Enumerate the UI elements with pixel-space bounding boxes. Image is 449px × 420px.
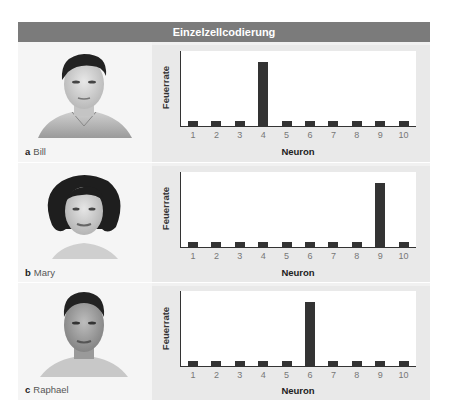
caption-bill: aBill [25, 146, 46, 157]
bar-neuron-10 [399, 121, 409, 126]
y-axis [180, 172, 181, 247]
x-axis-label: Neuron [180, 385, 416, 396]
caption-raphael: cRaphael [25, 384, 69, 395]
bar-neuron-3 [235, 242, 245, 247]
x-tick-label: 9 [370, 130, 390, 140]
x-tick-label: 6 [300, 251, 320, 261]
x-tick-label: 4 [253, 130, 273, 140]
x-tick-label: 1 [183, 251, 203, 261]
raphael-face-icon [32, 287, 136, 379]
x-tick-label: 8 [347, 251, 367, 261]
bar-neuron-2 [211, 121, 221, 126]
bar-neuron-10 [399, 242, 409, 247]
x-axis [180, 247, 416, 248]
chart-panel-raphael: Feuerrate Neuron 12345678910 [152, 283, 430, 400]
bar-neuron-8 [352, 121, 362, 126]
x-tick-label: 3 [230, 370, 250, 380]
bar-neuron-10 [399, 361, 409, 366]
x-tick-label: 7 [323, 130, 343, 140]
bar-neuron-1 [188, 242, 198, 247]
x-axis [180, 366, 416, 367]
plot-area [180, 291, 416, 366]
bar-neuron-9 [375, 121, 385, 126]
figure: Einzelzellcodierung aBill Feuerrate [18, 22, 430, 400]
x-tick-label: 7 [323, 251, 343, 261]
bar-neuron-7 [328, 242, 338, 247]
row-mary: bMary Feuerrate Neuron 12345678910 [18, 163, 430, 282]
bar-neuron-5 [282, 242, 292, 247]
row-bill: aBill Feuerrate Neuron 12345678910 [18, 42, 430, 162]
x-tick-label: 1 [183, 370, 203, 380]
x-tick-label: 1 [183, 130, 203, 140]
face-panel: bMary [18, 163, 152, 282]
plot-area [180, 51, 416, 126]
bar-neuron-4 [258, 242, 268, 247]
bar-neuron-1 [188, 361, 198, 366]
chart-panel-mary: Feuerrate Neuron 12345678910 [152, 163, 430, 282]
x-tick-label: 10 [394, 130, 414, 140]
x-tick-label: 5 [277, 251, 297, 261]
chart-panel-bill: Feuerrate Neuron 12345678910 [152, 42, 430, 162]
x-axis-label: Neuron [180, 267, 416, 278]
caption-mary: bMary [25, 267, 55, 278]
bar-neuron-4 [258, 361, 268, 366]
x-axis [180, 126, 416, 127]
bar-neuron-6 [305, 242, 315, 247]
bar-neuron-1 [188, 121, 198, 126]
face-panel: aBill [18, 42, 152, 162]
y-axis-label: Feuerrate [160, 307, 171, 350]
bar-neuron-6 [305, 121, 315, 126]
x-tick-label: 2 [206, 130, 226, 140]
bar-neuron-3 [235, 361, 245, 366]
bill-face-icon [32, 46, 136, 138]
bar-neuron-6 [305, 302, 315, 366]
bar-neuron-5 [282, 121, 292, 126]
x-tick-label: 2 [206, 251, 226, 261]
bar-neuron-2 [211, 242, 221, 247]
x-tick-label: 10 [394, 251, 414, 261]
row-raphael: cRaphael Feuerrate Neuron 12345678910 [18, 283, 430, 400]
x-tick-label: 5 [277, 370, 297, 380]
bar-neuron-9 [375, 361, 385, 366]
x-tick-label: 8 [347, 130, 367, 140]
bar-neuron-9 [375, 183, 385, 247]
y-axis-label: Feuerrate [160, 66, 171, 109]
x-tick-label: 6 [300, 370, 320, 380]
bar-neuron-7 [328, 361, 338, 366]
bar-neuron-4 [258, 62, 268, 126]
mary-face-icon [32, 167, 136, 259]
x-tick-label: 9 [370, 251, 390, 261]
x-axis-label: Neuron [180, 146, 416, 157]
x-tick-label: 10 [394, 370, 414, 380]
bar-neuron-7 [328, 121, 338, 126]
x-tick-label: 4 [253, 251, 273, 261]
face-panel: cRaphael [18, 283, 152, 400]
y-axis [180, 51, 181, 126]
x-tick-label: 2 [206, 370, 226, 380]
bar-neuron-8 [352, 361, 362, 366]
x-tick-label: 4 [253, 370, 273, 380]
bar-neuron-2 [211, 361, 221, 366]
x-tick-label: 6 [300, 130, 320, 140]
bar-neuron-3 [235, 121, 245, 126]
x-tick-label: 8 [347, 370, 367, 380]
x-tick-label: 5 [277, 130, 297, 140]
figure-title: Einzelzellcodierung [18, 22, 430, 42]
bar-neuron-8 [352, 242, 362, 247]
bar-neuron-5 [282, 361, 292, 366]
x-tick-label: 3 [230, 251, 250, 261]
x-tick-label: 9 [370, 370, 390, 380]
x-tick-label: 3 [230, 130, 250, 140]
x-tick-label: 7 [323, 370, 343, 380]
y-axis [180, 291, 181, 366]
y-axis-label: Feuerrate [160, 187, 171, 230]
